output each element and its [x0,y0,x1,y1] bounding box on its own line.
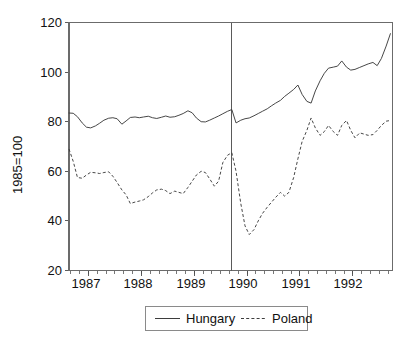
legend-label-poland: Poland [272,311,312,326]
x-tick-label: 1989 [177,276,206,291]
x-tick-label: 1991 [282,276,311,291]
x-tick-label: 1992 [334,276,363,291]
chart-figure: 1985=100 20 40 60 80 100 120 1987 1988 1… [0,0,406,346]
y-axis-title: 1985=100 [10,136,25,194]
chart-legend: Hungary Poland [146,307,313,331]
line-chart-svg: 1985=100 20 40 60 80 100 120 1987 1988 1… [0,0,406,346]
x-tick-label: 1990 [229,276,258,291]
y-tick-label: 20 [48,263,62,278]
y-tick-label: 120 [40,15,62,30]
y-tick-label: 40 [48,213,62,228]
y-tick-label: 100 [40,65,62,80]
y-tick-label: 80 [48,114,62,129]
legend-label-hungary: Hungary [186,311,236,326]
x-tick-label: 1987 [72,276,101,291]
x-tick-label: 1988 [124,276,153,291]
y-tick-label: 60 [48,164,62,179]
